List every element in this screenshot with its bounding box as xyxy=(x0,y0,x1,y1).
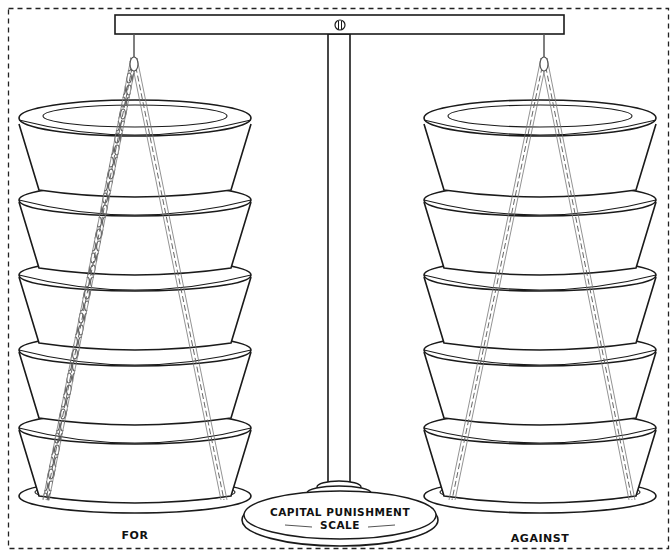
scale-title-line1: CAPITAL PUNISHMENT xyxy=(262,506,418,519)
balance-scale-illustration xyxy=(0,0,672,554)
scale-beam xyxy=(115,15,564,34)
right-pan-against xyxy=(424,34,656,513)
left-pan-for xyxy=(19,34,251,513)
against-label: AGAINST xyxy=(490,532,590,545)
pivot-screw-icon xyxy=(335,20,345,30)
scale-title-line2: SCALE xyxy=(262,519,418,532)
scale-post xyxy=(307,34,371,500)
for-label: FOR xyxy=(95,529,175,542)
scale-title: CAPITAL PUNISHMENT SCALE xyxy=(262,506,418,532)
